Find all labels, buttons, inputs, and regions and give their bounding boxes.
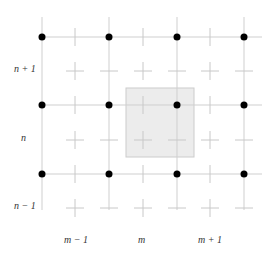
col-label-m-plus-1: m + 1 bbox=[198, 234, 222, 245]
grid-node bbox=[39, 171, 46, 178]
grid-node bbox=[174, 34, 181, 41]
row-label-n-plus-1: n + 1 bbox=[14, 63, 36, 74]
col-label-m: m bbox=[138, 234, 145, 245]
grid-node bbox=[39, 34, 46, 41]
row-label-n-minus-1: n − 1 bbox=[14, 200, 36, 211]
grid-diagram bbox=[0, 0, 278, 261]
grid-node bbox=[39, 102, 46, 109]
grid-node bbox=[106, 102, 113, 109]
grid-node bbox=[174, 102, 181, 109]
grid-node bbox=[241, 34, 248, 41]
grid-node bbox=[174, 171, 181, 178]
grid-node bbox=[241, 171, 248, 178]
grid-node bbox=[106, 171, 113, 178]
grid-node bbox=[106, 34, 113, 41]
row-label-n: n bbox=[21, 132, 26, 143]
col-label-m-minus-1: m − 1 bbox=[64, 234, 88, 245]
grid-node bbox=[241, 102, 248, 109]
highlighted-cell bbox=[126, 88, 194, 157]
